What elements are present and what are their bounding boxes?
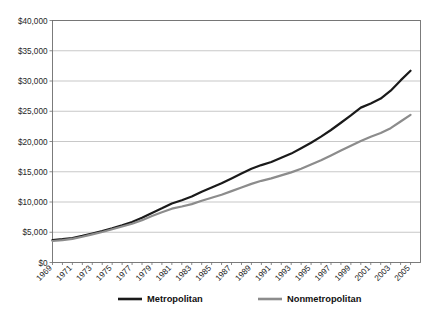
line-chart: $0$5,000$10,000$15,000$20,000$25,000$30,… (0, 0, 441, 326)
x-tick-label: 1977 (114, 263, 134, 283)
x-tick-label: 2005 (393, 263, 413, 283)
x-tick-label: 1975 (94, 263, 114, 283)
y-tick-label: $35,000 (18, 47, 48, 56)
x-tick-label: 1987 (214, 263, 234, 283)
x-tick-label: 2001 (353, 263, 373, 283)
x-tick-label: 1981 (154, 263, 174, 283)
x-tick-label: 1989 (234, 263, 254, 283)
series-line-metropolitan (53, 71, 411, 240)
y-tick-label: $30,000 (18, 77, 48, 86)
y-tick-label: $5,000 (22, 228, 47, 237)
x-tick-label: 1993 (273, 263, 293, 283)
y-tick-label: $25,000 (18, 107, 48, 116)
chart-legend: MetropolitanNonmetropolitan (118, 294, 362, 304)
x-tick-label: 1983 (174, 263, 194, 283)
y-axis-tick-labels: $0$5,000$10,000$15,000$20,000$25,000$30,… (18, 17, 53, 268)
x-tick-label: 1979 (134, 263, 154, 283)
x-tick-label: 1999 (333, 263, 353, 283)
legend-label-nonmetropolitan: Nonmetropolitan (287, 294, 362, 304)
x-tick-label: 1973 (74, 263, 94, 283)
x-axis-tick-labels: 1969197119731975197719791981198319851987… (35, 263, 413, 283)
y-tick-label: $15,000 (18, 168, 48, 177)
y-tick-label: $40,000 (18, 17, 48, 26)
y-tick-label: $20,000 (18, 138, 48, 147)
legend-label-metropolitan: Metropolitan (147, 294, 203, 304)
chart-container: $0$5,000$10,000$15,000$20,000$25,000$30,… (0, 0, 441, 326)
x-tick-label: 1991 (253, 263, 273, 283)
gridlines (53, 21, 421, 233)
x-tick-label: 1995 (293, 263, 313, 283)
data-series-lines (53, 71, 411, 241)
x-tick-label: 1971 (55, 263, 75, 283)
y-tick-label: $10,000 (18, 198, 48, 207)
x-tick-label: 1997 (313, 263, 333, 283)
x-tick-label: 2003 (373, 263, 393, 283)
x-tick-label: 1985 (194, 263, 214, 283)
